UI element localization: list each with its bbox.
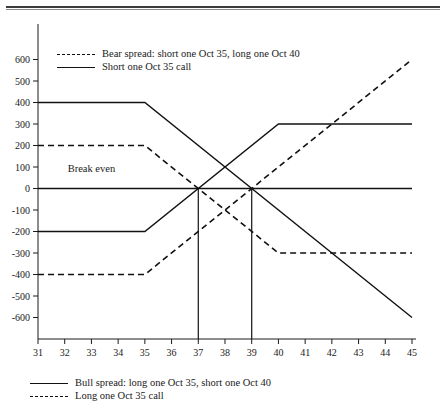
x-tick-label: 37 bbox=[193, 347, 203, 358]
legend-bottom-item-row: Long one Oct 35 call bbox=[30, 389, 271, 402]
x-tick-label: 33 bbox=[86, 347, 96, 358]
solid-line-swatch-icon bbox=[57, 62, 95, 72]
y-tick-label: 400 bbox=[15, 97, 30, 108]
y-tick-label: -600 bbox=[12, 312, 30, 323]
y-tick-label: 500 bbox=[15, 76, 30, 87]
x-tick-label: 40 bbox=[273, 347, 283, 358]
x-tick-label: 34 bbox=[113, 347, 123, 358]
x-tick-label: 35 bbox=[140, 347, 150, 358]
y-tick-label: 0 bbox=[25, 183, 30, 194]
y-tick-label: -200 bbox=[12, 226, 30, 237]
series-bull-spread-long-one-oct-35-short-one-oct-40 bbox=[38, 124, 412, 232]
solid-line-swatch-icon bbox=[30, 378, 68, 388]
y-tick-label: -400 bbox=[12, 269, 30, 280]
legend-top-item-row: Short one Oct 35 call bbox=[57, 60, 300, 73]
y-tick-label: 100 bbox=[15, 162, 30, 173]
x-tick-label: 41 bbox=[300, 347, 310, 358]
figure-page: 6005004003002001000-100-200-300-400-500-… bbox=[0, 0, 446, 411]
x-tick-label: 44 bbox=[380, 347, 390, 358]
legend-bottom-item-label: Bull spread: long one Oct 35, short one … bbox=[75, 376, 271, 389]
legend-bottom: Bull spread: long one Oct 35, short one … bbox=[30, 376, 271, 402]
x-tick-label: 43 bbox=[354, 347, 364, 358]
x-tick-label: 36 bbox=[167, 347, 177, 358]
legend-bottom-item-label: Long one Oct 35 call bbox=[75, 389, 164, 402]
series-short-one-oct-35-call bbox=[38, 103, 412, 318]
annotation-break-even: Break even bbox=[68, 163, 116, 174]
x-tick-label: 45 bbox=[407, 347, 417, 358]
dashed-line-swatch-icon bbox=[57, 49, 95, 59]
legend-top-item-label: Bear spread: short one Oct 35, long one … bbox=[102, 47, 300, 60]
y-tick-label: 300 bbox=[15, 119, 30, 130]
y-tick-label: -100 bbox=[12, 205, 30, 216]
y-tick-label: -500 bbox=[12, 291, 30, 302]
legend-bottom-item-row: Bull spread: long one Oct 35, short one … bbox=[30, 376, 271, 389]
series-bear-spread-short-one-oct-35-long-one-oct-40 bbox=[38, 146, 412, 254]
legend-top-item-row: Bear spread: short one Oct 35, long one … bbox=[57, 47, 300, 60]
y-tick-label: 600 bbox=[15, 54, 30, 65]
dashed-line-swatch-icon bbox=[30, 391, 68, 401]
page-top-rule-hairline bbox=[6, 9, 440, 10]
legend-top: Bear spread: short one Oct 35, long one … bbox=[57, 47, 300, 73]
x-tick-label: 38 bbox=[220, 347, 230, 358]
x-tick-label: 31 bbox=[33, 347, 43, 358]
y-tick-label: -300 bbox=[12, 248, 30, 259]
x-tick-label: 39 bbox=[247, 347, 257, 358]
page-top-rule bbox=[6, 6, 440, 8]
legend-top-item-label: Short one Oct 35 call bbox=[102, 60, 191, 73]
y-tick-label: 200 bbox=[15, 140, 30, 151]
x-tick-label: 42 bbox=[327, 347, 337, 358]
x-tick-label: 32 bbox=[60, 347, 70, 358]
